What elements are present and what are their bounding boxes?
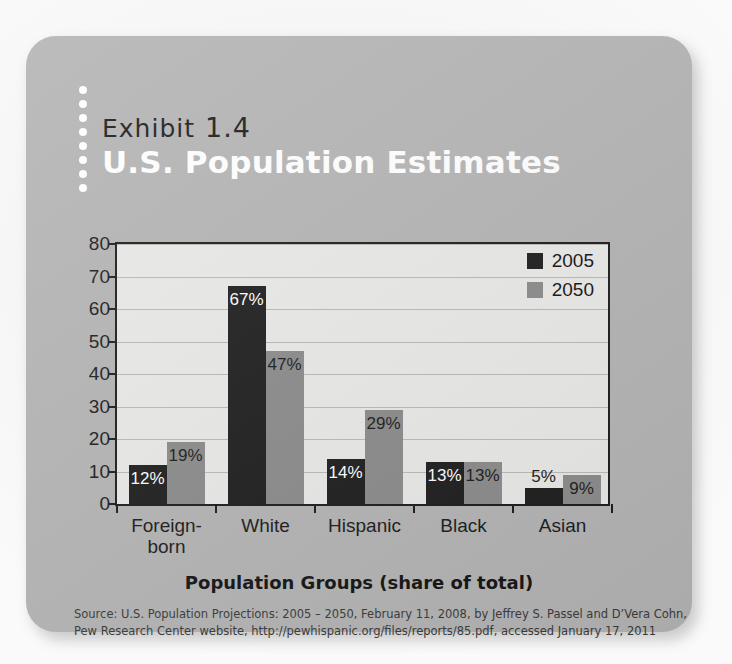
chart-legend: 20052050 (527, 250, 594, 308)
source-note: Source: U.S. Population Projections: 200… (74, 606, 674, 641)
bar-value-label: 19% (167, 447, 205, 464)
y-axis-tick-mark (108, 373, 116, 375)
x-axis-tick-mark (314, 504, 316, 513)
legend-label: 2005 (552, 250, 594, 272)
source-line-1: Source: U.S. Population Projections: 200… (74, 606, 674, 623)
exhibit-title: U.S. Population Estimates (102, 144, 561, 180)
y-axis-tick-mark (108, 503, 116, 505)
x-axis-category-label: Black (414, 516, 513, 537)
x-axis-tick-mark (611, 504, 613, 513)
x-axis-tick-mark (413, 504, 415, 513)
bar-value-label: 13% (426, 467, 464, 484)
y-axis-tick-label: 10 (78, 462, 110, 481)
gridline (117, 342, 608, 343)
exhibit-label: Exhibit1.4 (102, 112, 251, 143)
bar-value-label: 12% (129, 470, 167, 487)
exhibit-panel: Exhibit1.4 U.S. Population Estimates 12%… (26, 36, 692, 632)
x-axis-tick-mark (116, 504, 118, 513)
bar-black-2005: 13% (426, 462, 464, 504)
y-axis-tick-mark (108, 308, 116, 310)
bar-asian-2050: 9% (563, 475, 601, 504)
bar-chart: 12%19%67%47%14%29%13%13%5%9% 01020304050… (84, 232, 620, 522)
bar-white-2050: 47% (266, 351, 304, 504)
legend-label: 2050 (552, 279, 594, 301)
legend-entry-2050: 2050 (527, 279, 594, 301)
bar-value-label: 29% (365, 415, 403, 432)
y-axis-tick-mark (108, 406, 116, 408)
exhibit-number: 1.4 (205, 112, 251, 143)
x-axis-category-label: Asian (513, 516, 612, 537)
y-axis-tick-label: 0 (78, 494, 110, 513)
gridline (117, 407, 608, 408)
bar-foreign-born-2005: 12% (129, 465, 167, 504)
bar-value-label: 47% (266, 356, 304, 373)
bar-value-label: 9% (563, 480, 601, 497)
gridline (117, 439, 608, 440)
y-axis-tick-mark (108, 276, 116, 278)
legend-swatch-2050 (527, 282, 543, 298)
y-axis-tick-mark (108, 243, 116, 245)
source-line-2: Pew Research Center website, http://pewh… (74, 623, 674, 640)
bar-white-2005: 67% (228, 286, 266, 504)
y-axis-tick-mark (108, 438, 116, 440)
bar-hispanic-2050: 29% (365, 410, 403, 504)
dotted-rule-decoration (79, 86, 88, 206)
y-axis-tick-label: 50 (78, 332, 110, 351)
y-axis-tick-label: 40 (78, 364, 110, 383)
x-axis-category-label: White (216, 516, 315, 537)
bar-asian-2005: 5% (525, 488, 563, 504)
x-axis-title: Population Groups (share of total) (26, 572, 692, 593)
bar-hispanic-2005: 14% (327, 459, 365, 505)
legend-swatch-2005 (527, 253, 543, 269)
gridline (117, 244, 608, 245)
bar-black-2050: 13% (464, 462, 502, 504)
y-axis-tick-mark (108, 471, 116, 473)
bar-value-label: 14% (327, 464, 365, 481)
x-axis-tick-mark (512, 504, 514, 513)
x-axis-tick-mark (215, 504, 217, 513)
x-axis-category-label: Foreign-born (117, 516, 216, 557)
x-axis-category-label: Hispanic (315, 516, 414, 537)
y-axis-tick-label: 60 (78, 299, 110, 318)
y-axis-tick-label: 20 (78, 429, 110, 448)
exhibit-page: Exhibit1.4 U.S. Population Estimates 12%… (0, 0, 732, 664)
legend-entry-2005: 2005 (527, 250, 594, 272)
bar-value-label: 13% (464, 467, 502, 484)
bar-value-label: 67% (228, 291, 266, 308)
y-axis-tick-label: 70 (78, 267, 110, 286)
exhibit-label-word: Exhibit (102, 114, 195, 143)
bar-foreign-born-2050: 19% (167, 442, 205, 504)
gridline (117, 309, 608, 310)
bar-value-label: 5% (525, 468, 563, 485)
y-axis-tick-label: 30 (78, 397, 110, 416)
y-axis-tick-mark (108, 341, 116, 343)
y-axis-tick-label: 80 (78, 234, 110, 253)
gridline (117, 374, 608, 375)
